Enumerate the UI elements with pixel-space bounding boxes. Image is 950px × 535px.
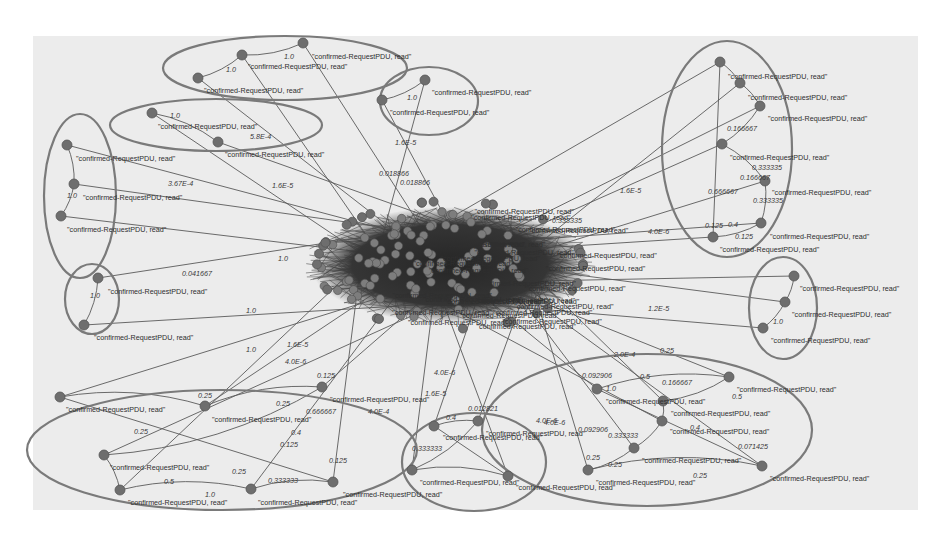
graph-node-n37[interactable] <box>657 416 667 426</box>
graph-node-n6[interactable] <box>147 108 157 118</box>
graph-node-n20[interactable] <box>789 271 799 281</box>
hub-perimeter-node[interactable] <box>321 238 330 247</box>
graph-node-n12[interactable] <box>79 320 89 330</box>
graph-node-n9[interactable] <box>69 179 79 189</box>
hub-perimeter-node[interactable] <box>366 209 375 218</box>
hub-node[interactable] <box>426 222 434 230</box>
edge-weight-label: 1.0 <box>205 490 215 499</box>
hub-node[interactable] <box>364 259 372 267</box>
graph-node-n26[interactable] <box>99 450 109 460</box>
hub-node[interactable] <box>347 295 355 303</box>
graph-node-n38[interactable] <box>629 443 639 453</box>
graph-node-n8[interactable] <box>62 140 72 150</box>
edge-weight-label: 0.4 <box>728 220 738 229</box>
hub-node[interactable] <box>397 214 405 222</box>
graph-node-n4[interactable] <box>420 75 430 85</box>
graph-node-n15[interactable] <box>755 101 765 111</box>
edge-weight-label: 0.333333 <box>412 444 442 453</box>
graph-node-n7[interactable] <box>213 137 223 147</box>
graph-node-n25[interactable] <box>317 382 327 392</box>
graph-node-n31[interactable] <box>473 416 483 426</box>
hub-node[interactable] <box>390 230 398 238</box>
node-label: "confirmed-RequestPDU, read" <box>225 150 325 159</box>
graph-node-n3[interactable] <box>193 73 203 83</box>
hub-node[interactable] <box>427 278 435 286</box>
edge-weight-label: 0.25 <box>586 453 601 462</box>
hub-node[interactable] <box>345 276 353 284</box>
graph-node-n22[interactable] <box>758 323 768 333</box>
edge-weight-label: 0.5 <box>640 372 651 381</box>
graph-node-n24[interactable] <box>200 401 210 411</box>
hub-node[interactable] <box>450 224 458 232</box>
graph-node-n32[interactable] <box>407 465 417 475</box>
hub-node[interactable] <box>407 268 415 276</box>
graph-node-n5[interactable] <box>377 95 387 105</box>
hub-node[interactable] <box>478 230 486 238</box>
graph-node-n35[interactable] <box>724 372 734 382</box>
edge-weight-label: 0.166667 <box>662 378 693 387</box>
node-label: "confirmed-RequestPDU, read" <box>748 93 848 102</box>
hub-node-label: "confirmed-RequestPDU, read" <box>516 225 616 234</box>
graph-node-n16[interactable] <box>717 139 727 149</box>
hub-node[interactable] <box>376 295 384 303</box>
hub-node[interactable] <box>449 210 457 218</box>
hub-node[interactable] <box>372 259 380 267</box>
graph-node-n34[interactable] <box>592 384 602 394</box>
edge-weight-label: 1.0 <box>90 291 100 300</box>
hub-node[interactable] <box>424 248 432 256</box>
hub-node[interactable] <box>392 222 400 230</box>
cluster-edge <box>412 467 508 476</box>
edge-weight-label: 4.0E-4 <box>368 407 389 416</box>
graph-node-n1[interactable] <box>298 38 308 48</box>
hub-node[interactable] <box>371 274 379 282</box>
edge-weight-label: 0.092906 <box>578 425 608 434</box>
hub-node[interactable] <box>504 231 512 239</box>
node-label: "confirmed-RequestPDU, read" <box>204 86 304 95</box>
hub-node[interactable] <box>442 221 450 229</box>
hub-node[interactable] <box>438 208 446 216</box>
hub-node[interactable] <box>370 239 378 247</box>
hub-node[interactable] <box>366 281 374 289</box>
hub-node[interactable] <box>416 237 424 245</box>
edge-weight-label: 4.0E-6 <box>434 368 455 377</box>
graph-node-n18[interactable] <box>756 218 766 228</box>
edge-weight-label: 1.0 <box>170 111 180 120</box>
edge-weight-label: 1.6E-5 <box>395 138 417 147</box>
hub-node[interactable] <box>394 242 402 250</box>
node-label: "confirmed-RequestPDU, read" <box>108 287 208 296</box>
hub-node[interactable] <box>355 254 363 262</box>
graph-node-n28[interactable] <box>246 484 256 494</box>
graph-node-n23[interactable] <box>55 392 65 402</box>
graph-node-n40[interactable] <box>757 461 767 471</box>
hub-node[interactable] <box>391 250 399 258</box>
edge-weight-label: 1.0 <box>67 191 77 200</box>
graph-node-n11[interactable] <box>93 273 103 283</box>
graph-node-n21[interactable] <box>780 297 790 307</box>
edge-weight-label: 0.041667 <box>182 269 213 278</box>
hub-node[interactable] <box>377 246 385 254</box>
hub-perimeter-node[interactable] <box>418 198 427 207</box>
hub-node[interactable] <box>407 231 415 239</box>
network-graph[interactable]: "confirmed-RequestPDU, read""confirmed-R… <box>0 0 950 535</box>
graph-node-n19[interactable] <box>708 232 718 242</box>
hub-perimeter-node[interactable] <box>323 285 332 294</box>
graph-node-n13[interactable] <box>715 57 725 67</box>
hub-perimeter-node[interactable] <box>342 220 351 229</box>
hub-perimeter-node[interactable] <box>315 249 324 258</box>
graph-node-n30[interactable] <box>429 421 439 431</box>
graph-node-n2[interactable] <box>237 50 247 60</box>
hub-perimeter-node[interactable] <box>357 213 366 222</box>
hub-node[interactable] <box>388 272 396 280</box>
graph-node-n39[interactable] <box>583 465 593 475</box>
hub-perimeter-node[interactable] <box>429 197 438 206</box>
hub-node[interactable] <box>334 286 342 294</box>
hub-perimeter-node[interactable] <box>375 314 384 323</box>
graph-node-n29[interactable] <box>328 477 338 487</box>
node-label: "confirmed-RequestPDU, read" <box>390 108 490 117</box>
hub-perimeter-node[interactable] <box>313 260 322 269</box>
graph-node-n27[interactable] <box>115 485 125 495</box>
hub-node[interactable] <box>361 234 369 242</box>
node-label: "confirmed-RequestPDU, read" <box>128 498 228 507</box>
graph-node-n10[interactable] <box>56 211 66 221</box>
dense-hub-cluster[interactable]: "confirmed-RequestPDU, read""confirmed-R… <box>310 197 657 333</box>
